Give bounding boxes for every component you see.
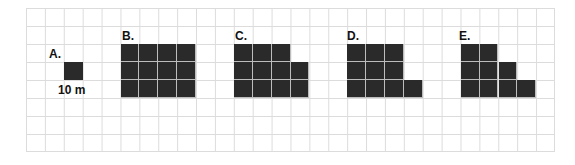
- shape-cell: [366, 44, 385, 62]
- shape-cell: [404, 80, 423, 98]
- shape-cell: [461, 80, 480, 98]
- scale-note: 10 m: [58, 83, 85, 97]
- shape-cell: [291, 62, 310, 80]
- shape-cell: [234, 44, 253, 62]
- shape-cell: [480, 62, 499, 80]
- shape-cell: [461, 62, 480, 80]
- shape-cell: [347, 44, 366, 62]
- shape-e-label: E.: [459, 29, 470, 43]
- shape-cell: [385, 62, 404, 80]
- shape-cell: [121, 62, 140, 80]
- shape-cell: [158, 62, 177, 80]
- shape-cell: [272, 44, 291, 62]
- shape-cell: [177, 62, 196, 80]
- shape-cell: [253, 44, 272, 62]
- shape-cell: [272, 80, 291, 98]
- shape-cell: [253, 80, 272, 98]
- shape-cell: [385, 80, 404, 98]
- shape-cell: [461, 44, 480, 62]
- shape-cell: [291, 80, 310, 98]
- shape-cell: [272, 62, 291, 80]
- shape-cell: [158, 44, 177, 62]
- shape-c-label: C.: [235, 29, 247, 43]
- shape-cell: [517, 80, 536, 98]
- shape-cell: [177, 80, 196, 98]
- shape-cell: [139, 62, 158, 80]
- shape-cell: [366, 62, 385, 80]
- shape-cell: [121, 80, 140, 98]
- shape-cell: [253, 62, 272, 80]
- shape-cell: [480, 80, 499, 98]
- shape-a-label: A.: [49, 47, 61, 61]
- shape-cell: [64, 62, 83, 80]
- shape-cell: [234, 62, 253, 80]
- shape-cell: [139, 44, 158, 62]
- shape-cell: [177, 44, 196, 62]
- shape-cell: [366, 80, 385, 98]
- shape-cell: [121, 44, 140, 62]
- shape-cell: [499, 62, 518, 80]
- shape-cell: [385, 44, 404, 62]
- shape-cell: [234, 80, 253, 98]
- shape-cell: [139, 80, 158, 98]
- shape-d-label: D.: [347, 29, 359, 43]
- shape-cell: [347, 62, 366, 80]
- shape-cell: [347, 80, 366, 98]
- shape-cell: [480, 44, 499, 62]
- shape-b-label: B.: [122, 29, 134, 43]
- shape-cell: [499, 80, 518, 98]
- shape-cell: [158, 80, 177, 98]
